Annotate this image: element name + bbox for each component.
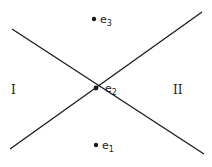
region-I-label: I — [11, 83, 16, 97]
point-e2 — [94, 86, 99, 91]
line-ascending — [10, 12, 202, 149]
label-e1: e1 — [102, 139, 114, 154]
region-II-label: II — [173, 83, 183, 97]
label-e2: e2 — [105, 82, 117, 97]
point-e3 — [92, 17, 96, 21]
point-e1 — [94, 143, 98, 147]
crossing-lines-diagram: e3 e2 e1 I II — [0, 0, 212, 167]
label-e3: e3 — [100, 13, 112, 28]
